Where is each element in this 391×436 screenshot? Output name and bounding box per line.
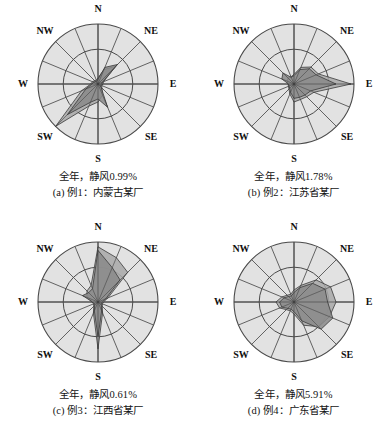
figure-title-d: (d) 例4：广东省某厂 [248,404,339,417]
compass-label-s: S [291,371,297,382]
compass-label-s: S [95,371,101,382]
compass-label-s: S [291,153,297,164]
compass-label-e: E [365,78,372,89]
figure-title-a: (a) 例1：内蒙古某厂 [53,186,144,199]
compass-label-se: SE [145,131,158,142]
wind-rose-panel-b: NNEESESSWWNW 全年，静风1.78% (b) 例2：江苏省某厂 [196,0,391,218]
compass-label-sw: SW [233,349,249,360]
wind-rose-chart-a: NNEESESSWWNW [10,2,186,172]
compass-label-nw: NW [232,25,249,36]
compass-label-n: N [290,3,298,14]
wind-rose-chart-c: NNEESESSWWNW [10,220,186,390]
wind-rose-chart-b: NNEESESSWWNW [206,2,382,172]
compass-label-ne: NE [144,25,158,36]
compass-label-nw: NW [36,243,53,254]
compass-label-s: S [95,153,101,164]
compass-label-se: SE [145,349,158,360]
compass-label-nw: NW [36,25,53,36]
compass-label-se: SE [340,349,353,360]
wind-rose-chart-d: NNEESESSWWNW [206,220,382,390]
compass-label-n: N [94,221,102,232]
caption-c: 全年，静风0.61% (c) 例3：江西省某厂 [53,390,144,417]
figure-title-c: (c) 例3：江西省某厂 [53,404,144,417]
wind-rose-panel-c: NNEESESSWWNW 全年，静风0.61% (c) 例3：江西省某厂 [0,218,196,436]
compass-label-ne: NE [340,25,354,36]
compass-label-e: E [170,78,177,89]
compass-label-sw: SW [37,349,53,360]
compass-label-ne: NE [144,243,158,254]
compass-label-se: SE [340,131,353,142]
compass-label-w: W [214,78,224,89]
compass-label-sw: SW [233,131,249,142]
compass-label-e: E [170,296,177,307]
compass-label-sw: SW [37,131,53,142]
wind-rose-panel-a: NNEESESSWWNW 全年，静风0.99% (a) 例1：内蒙古某厂 [0,0,196,218]
figure-title-b: (b) 例2：江苏省某厂 [248,186,339,199]
caption-a: 全年，静风0.99% (a) 例1：内蒙古某厂 [53,172,144,199]
compass-label-n: N [290,221,298,232]
compass-label-e: E [365,296,372,307]
compass-label-w: W [18,296,28,307]
caption-b: 全年，静风1.78% (b) 例2：江苏省某厂 [248,172,339,199]
compass-label-w: W [214,296,224,307]
compass-label-ne: NE [340,243,354,254]
wind-rose-figure-grid: NNEESESSWWNW 全年，静风0.99% (a) 例1：内蒙古某厂 NNE… [0,0,391,436]
compass-label-n: N [94,3,102,14]
wind-rose-panel-d: NNEESESSWWNW 全年，静风5.91% (d) 例4：广东省某厂 [196,218,391,436]
compass-label-w: W [18,78,28,89]
compass-label-nw: NW [232,243,249,254]
caption-d: 全年，静风5.91% (d) 例4：广东省某厂 [248,390,339,417]
